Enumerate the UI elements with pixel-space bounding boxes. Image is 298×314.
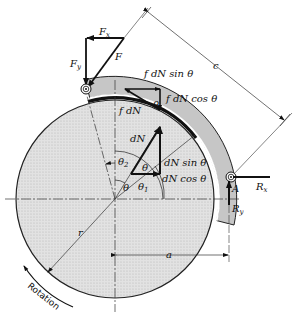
label-A: A [231,183,239,194]
label-F: F [114,51,123,62]
label-Fx: Fx [98,26,110,39]
label-a: a [166,249,172,260]
upper-pin [81,84,91,94]
label-dN: dN [130,133,146,144]
label-dN-sin-theta: dN sin θ [164,157,206,168]
label-f-dN: f dN [118,105,142,116]
dimension-c-tick-top [142,7,151,18]
label-theta: θ [123,182,129,193]
label-Fy: Fy [69,58,82,71]
label-theta-vector: θ [142,162,148,173]
label-rotation: Rotation [26,281,62,312]
label-f-dN-sin-theta: f dN sin θ [143,68,193,79]
label-Rx: Rx [255,181,268,194]
diagram-canvas: Fx Fy F c f dN sin θ f dN cos θ f dN θ d… [0,0,298,314]
label-c: c [213,60,219,71]
label-theta-small: θ [153,99,159,110]
F-line-of-action [124,8,148,38]
label-dN-cos-theta: dN cos θ [162,173,206,184]
dimension-c-tick-bottom [280,114,290,126]
label-f-dN-cos-theta: f dN cos θ [165,93,217,104]
brake-diagram: Fx Fy F c f dN sin θ f dN cos θ f dN θ d… [0,0,298,314]
